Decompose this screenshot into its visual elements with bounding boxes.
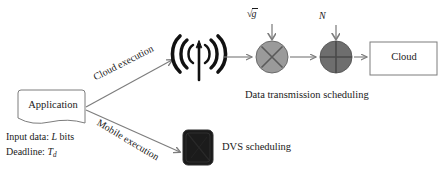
figure-canvas: Application Cloud Cloud execution Mobile… bbox=[0, 0, 445, 183]
channel-gain-label: √g bbox=[247, 8, 258, 19]
deadline-subscript: d bbox=[53, 151, 57, 159]
circle-times-icon bbox=[256, 41, 288, 73]
noise-label: N bbox=[319, 10, 326, 21]
edge-cloud-execution bbox=[86, 60, 172, 107]
cloud-node-label: Cloud bbox=[371, 51, 437, 62]
input-data-suffix: bits bbox=[57, 131, 74, 142]
deadline-annotation: Deadline: Td bbox=[6, 146, 57, 159]
channel-gain-symbol: g bbox=[252, 8, 258, 19]
processor-chip-icon bbox=[183, 130, 213, 165]
input-data-prefix: Input data: bbox=[6, 131, 52, 142]
broadcast-antenna-icon bbox=[172, 36, 225, 80]
dvs-scheduling-caption: DVS scheduling bbox=[222, 141, 291, 152]
application-node-label: Application bbox=[22, 99, 84, 110]
circle-plus-icon bbox=[320, 41, 352, 73]
data-transmission-caption: Data transmission scheduling bbox=[245, 89, 369, 100]
diagram-vector-layer bbox=[0, 0, 445, 183]
deadline-prefix: Deadline: bbox=[6, 146, 47, 157]
input-data-annotation: Input data: L bits bbox=[6, 131, 74, 142]
